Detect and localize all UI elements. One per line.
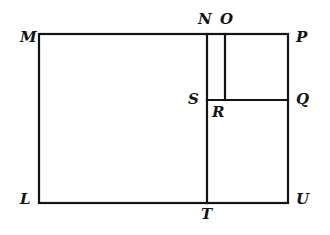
- vertex-label-U: U: [296, 192, 309, 207]
- vertex-label-R: R: [212, 105, 224, 120]
- vertex-label-M: M: [20, 30, 37, 45]
- vertex-label-P: P: [296, 30, 307, 45]
- vertex-label-O: O: [220, 12, 233, 27]
- vertex-label-N: N: [198, 12, 212, 27]
- outer-rectangle-MPUL: [39, 34, 288, 203]
- geometry-diagram: M N O P Q S R L T U: [0, 0, 330, 235]
- vertex-label-S: S: [188, 92, 199, 107]
- diagram-canvas: [0, 0, 330, 235]
- vertex-label-Q: Q: [296, 92, 309, 107]
- vertex-label-L: L: [20, 192, 31, 207]
- vertex-label-T: T: [201, 207, 212, 222]
